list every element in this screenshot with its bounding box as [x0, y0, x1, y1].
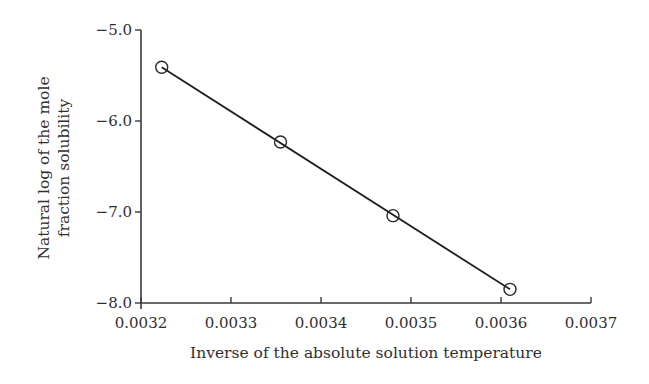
tick-labels: −5.0−6.0−7.0−8.00.00320.00330.00340.0035…: [96, 21, 618, 332]
x-axis-title: Inverse of the absolute solution tempera…: [190, 344, 542, 362]
x-tick-label: 0.0035: [385, 314, 438, 332]
x-tick-label: 0.0033: [205, 314, 258, 332]
y-tick-label: −6.0: [96, 112, 132, 130]
fit-line: [162, 67, 510, 289]
chart-canvas: −5.0−6.0−7.0−8.00.00320.00330.00340.0035…: [0, 0, 649, 384]
x-tick-label: 0.0036: [475, 314, 528, 332]
y-tick-label: −5.0: [96, 21, 132, 39]
data-point-marker: [275, 136, 287, 148]
y-axis-title-line2: fraction solubility: [55, 99, 73, 238]
y-axis-title-line1: Natural log of the mole: [35, 76, 53, 259]
y-tick-label: −8.0: [96, 294, 132, 312]
plot-area: [156, 61, 516, 295]
x-tick-label: 0.0034: [295, 314, 348, 332]
axes: [135, 30, 591, 309]
y-tick-label: −7.0: [96, 203, 132, 221]
x-tick-label: 0.0037: [565, 314, 618, 332]
x-tick-label: 0.0032: [115, 314, 168, 332]
